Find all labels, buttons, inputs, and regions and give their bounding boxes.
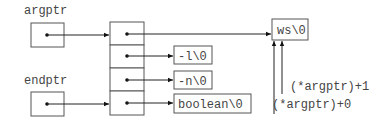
annotation-argptr-plus-1: (*argptr)+1 [290,80,369,94]
string-minus-n: -n\0 [178,75,207,89]
pointer-array [110,22,144,115]
pointer-diagram: argptr endptr ws\0 -l\0 -n\0 boolean\0 (… [0,0,381,124]
string-minus-l: -l\0 [178,50,207,64]
argptr-label: argptr [24,4,67,18]
endptr-label: endptr [24,74,67,88]
annotation-argptr-plus-0: (*argptr)+0 [272,98,351,112]
string-ws: ws\0 [277,24,306,38]
string-boolean: boolean\0 [178,98,243,112]
